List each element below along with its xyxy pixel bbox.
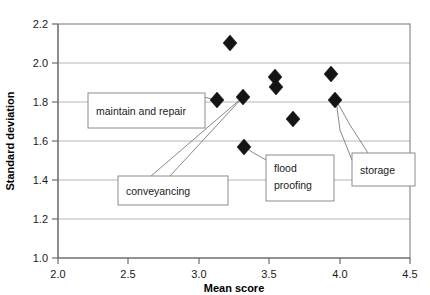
callout-label-flood-proofing-line1: flood [274, 162, 297, 174]
x-tick-label-4.0: 4.0 [332, 268, 347, 280]
y-tick-label-1.0: 1.0 [33, 252, 48, 264]
y-tick-label-2.2: 2.2 [33, 18, 48, 30]
callout-conveyancing[interactable]: conveyancing [118, 176, 228, 205]
x-tick-labels: 2.0 2.5 3.0 3.5 4.0 4.5 [50, 268, 417, 280]
callout-flood-proofing[interactable]: flood proofing [266, 155, 334, 201]
x-axis-title: Mean score [204, 282, 265, 294]
callout-label-maintain-and-repair: maintain and repair [96, 105, 186, 117]
y-tick-label-1.8: 1.8 [33, 96, 48, 108]
callout-label-storage: storage [360, 164, 395, 176]
y-tick-label-1.2: 1.2 [33, 213, 48, 225]
x-tick-label-2.0: 2.0 [50, 268, 65, 280]
callout-label-conveyancing: conveyancing [126, 185, 190, 197]
y-tick-label-2.0: 2.0 [33, 57, 48, 69]
x-tick-label-3.0: 3.0 [191, 268, 206, 280]
y-axis-title: Standard deviation [4, 91, 16, 190]
x-tick-label-3.5: 3.5 [261, 268, 276, 280]
y-tick-label-1.6: 1.6 [33, 135, 48, 147]
x-tick-label-2.5: 2.5 [120, 268, 135, 280]
callout-maintain-and-repair[interactable]: maintain and repair [88, 93, 205, 128]
y-tick-label-1.4: 1.4 [33, 174, 48, 186]
y-tick-marks [52, 24, 58, 258]
y-tick-labels: 2.2 2.0 1.8 1.6 1.4 1.2 1.0 [33, 18, 48, 264]
x-tick-marks [58, 258, 410, 264]
scatter-chart: 2.2 2.0 1.8 1.6 1.4 1.2 1.0 2.0 2.5 3.0 … [0, 0, 430, 295]
chart-canvas: 2.2 2.0 1.8 1.6 1.4 1.2 1.0 2.0 2.5 3.0 … [0, 0, 430, 295]
x-tick-label-4.5: 4.5 [402, 268, 417, 280]
callout-label-flood-proofing-line2: proofing [274, 179, 312, 191]
callout-storage[interactable]: storage [352, 153, 415, 186]
